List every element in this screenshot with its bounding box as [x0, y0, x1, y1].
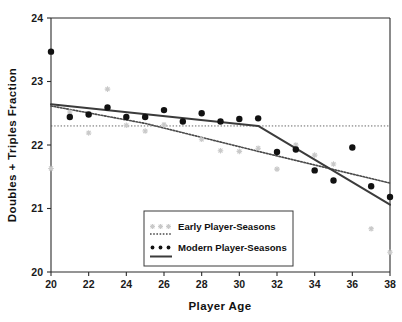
early-data-point [274, 166, 280, 172]
legend-modern-marker-icon [151, 246, 155, 250]
doubles-triples-by-age-scatter-chart: 2021222324 20222426283032343638 Player A… [0, 0, 402, 322]
legend-label-early: Early Player-Seasons [178, 221, 276, 232]
y-tick-label: 23 [31, 75, 43, 87]
early-data-point [105, 86, 111, 92]
chart-legend: Early Player-Seasons Modern Player-Seaso… [144, 211, 293, 266]
early-data-point [312, 152, 318, 158]
early-data-point [237, 149, 243, 155]
legend-modern-marker-icon [167, 246, 171, 250]
modern-data-point [180, 118, 186, 124]
modern-data-point [48, 48, 54, 54]
early-data-point [218, 148, 224, 154]
y-tick-label: 24 [31, 12, 43, 24]
y-tick-label: 22 [31, 139, 43, 151]
chart-figure: 2021222324 20222426283032343638 Player A… [0, 0, 402, 322]
modern-data-point [123, 114, 129, 120]
legend-box [144, 211, 293, 266]
x-tick-label: 28 [196, 278, 208, 290]
modern-data-point [330, 177, 336, 183]
modern-data-point [217, 118, 223, 124]
modern-data-point [293, 146, 299, 152]
early-data-point [48, 166, 54, 172]
early-data-point [368, 226, 374, 232]
modern-data-point [161, 107, 167, 113]
modern-data-point [104, 104, 110, 110]
modern-data-point [368, 183, 374, 189]
early-data-point [331, 161, 337, 167]
x-tick-label: 24 [120, 278, 132, 290]
x-tick-label: 34 [309, 278, 321, 290]
x-axis-title: Player Age [188, 300, 251, 312]
x-tick-label: 30 [233, 278, 245, 290]
modern-data-point [349, 144, 355, 150]
modern-data-point [142, 114, 148, 120]
early-data-point [124, 123, 130, 129]
x-tick-label: 22 [83, 278, 95, 290]
x-tick-label: 32 [271, 278, 283, 290]
modern-data-point [311, 167, 317, 173]
x-tick-label: 38 [384, 278, 396, 290]
y-tick-label: 21 [31, 202, 43, 214]
modern-data-point [67, 114, 73, 120]
modern-data-point [274, 149, 280, 155]
legend-label-modern: Modern Player-Seasons [178, 242, 287, 253]
modern-data-point [198, 110, 204, 116]
early-data-point [387, 250, 393, 256]
early-data-point [255, 145, 261, 151]
y-tick-label: 20 [31, 266, 43, 278]
modern-data-point [85, 111, 91, 117]
modern-data-point [387, 194, 393, 200]
early-data-point [86, 130, 92, 136]
chart-background [0, 0, 402, 322]
legend-modern-marker-icon [159, 246, 163, 250]
early-data-point [142, 128, 148, 134]
early-data-point [161, 122, 167, 128]
modern-data-point [255, 115, 261, 121]
y-axis-title: Doubles + Triples Fraction [6, 68, 18, 223]
x-tick-label: 20 [45, 278, 57, 290]
x-tick-label: 36 [346, 278, 358, 290]
modern-data-point [236, 116, 242, 122]
early-data-point [199, 136, 205, 142]
x-tick-label: 26 [158, 278, 170, 290]
